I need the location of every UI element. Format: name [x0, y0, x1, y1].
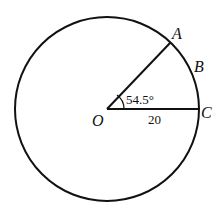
circle-diagram: O A B C 54.5° 20: [0, 0, 223, 217]
label-b: B: [194, 58, 204, 75]
label-c: C: [201, 104, 212, 121]
angle-label: 54.5°: [126, 92, 154, 107]
label-a: A: [171, 25, 182, 42]
radius-label: 20: [148, 112, 161, 127]
label-o: O: [92, 112, 104, 129]
